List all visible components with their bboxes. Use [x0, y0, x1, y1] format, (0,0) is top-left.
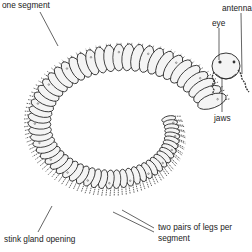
leader-antenna — [241, 13, 242, 74]
leader-one-segment — [40, 12, 58, 46]
antenna-right — [238, 70, 249, 92]
millipede-diagram — [0, 0, 252, 252]
label-legs-line2: segment — [158, 233, 190, 243]
label-antenna: antenna — [222, 3, 252, 13]
label-jaws: jaws — [214, 113, 231, 123]
leader-legs-1 — [113, 212, 154, 232]
millipede-body-segments — [27, 43, 228, 189]
leader-stink-gland — [38, 206, 52, 232]
label-stink-gland-opening: stink gland opening — [4, 234, 75, 244]
label-eye: eye — [212, 18, 225, 28]
eye-mark — [218, 60, 221, 63]
label-one-segment: one segment — [2, 0, 50, 10]
label-legs-line1: two pairs of legs per — [158, 222, 232, 232]
